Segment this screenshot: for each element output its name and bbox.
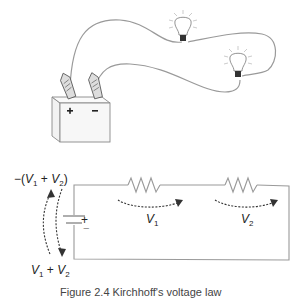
- v1-symbol: V: [146, 212, 154, 226]
- light-bulb-icon: [224, 46, 252, 77]
- v1-symbol: V: [25, 172, 33, 186]
- light-bulb-icon: [169, 10, 197, 41]
- paren-open: −(: [14, 172, 25, 186]
- battery-icon: [52, 97, 110, 142]
- plus-sign: +: [37, 172, 51, 186]
- label-v1: V1: [146, 212, 158, 228]
- v2-subscript: 2: [249, 219, 253, 228]
- schematic-wires: [74, 178, 289, 260]
- v1-symbol: V: [31, 263, 39, 277]
- figure-caption: Figure 2.4 Kirchhoff's voltage law: [60, 286, 221, 298]
- paren-close: ): [64, 172, 68, 186]
- v2-symbol: V: [241, 212, 249, 226]
- label-negative-sum: −(V1 + V2): [14, 172, 68, 188]
- v2-symbol: V: [51, 172, 59, 186]
- label-v2: V2: [241, 212, 253, 228]
- v1-subscript: 1: [154, 219, 158, 228]
- label-positive-sum: V1 + V2: [31, 263, 70, 279]
- v2-symbol: V: [57, 263, 65, 277]
- alligator-clip-positive-icon: [58, 71, 76, 99]
- v2-subscript: 2: [65, 270, 69, 279]
- source-minus-label: −: [83, 222, 89, 234]
- plus-sign: +: [43, 263, 57, 277]
